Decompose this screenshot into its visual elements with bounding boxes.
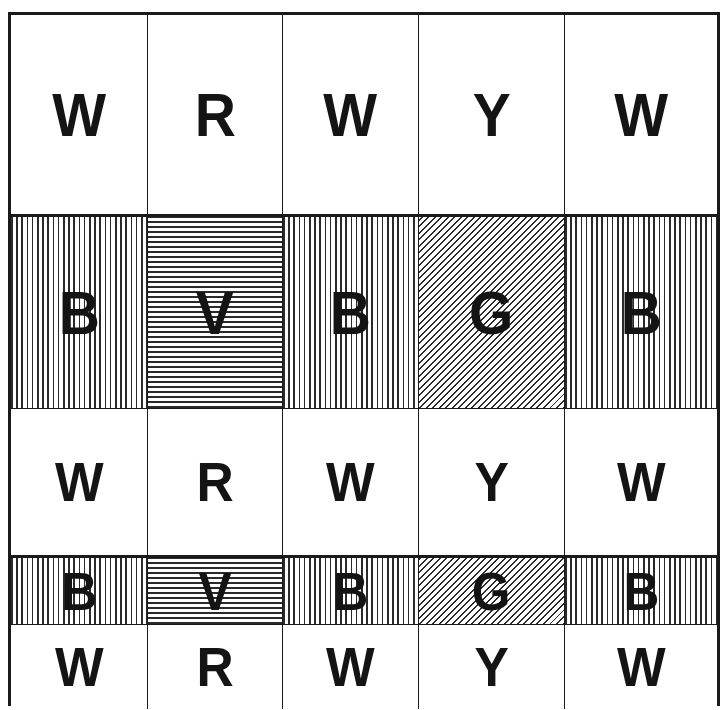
grid-cell-white: R [148,625,283,709]
cell-letter: W [324,84,378,146]
cell-letter: B [620,282,661,344]
grid-cell-white: W [283,409,419,556]
cell-letter: Y [472,84,510,146]
grid-cell-vertical-hatch: B [11,215,148,409]
grid-cell-diagonal-hatch: G [419,556,565,625]
grid-cell-white: R [148,409,283,556]
cell-letter: W [55,454,104,510]
grid-cell-vertical-hatch: B [565,215,717,409]
cell-letter: B [623,564,659,618]
cell-letter: Y [474,639,508,695]
cell-letter: W [55,639,104,695]
grid-cell-vertical-hatch: B [283,215,419,409]
cell-letter: Y [474,454,508,510]
grid-cell-white: Y [419,625,565,709]
cell-letter: W [52,84,106,146]
grid-cell-white: W [283,15,419,215]
grid-cell-white: W [283,625,419,709]
grid-cell-white: Y [419,409,565,556]
grid-cell-white: W [565,15,717,215]
grid-cell-white: Y [419,15,565,215]
grid-cell-white: W [11,409,148,556]
grid-cell-white: W [11,625,148,709]
cell-letter: V [196,282,234,344]
cell-letter: W [617,639,666,695]
cell-letter: B [58,282,99,344]
cell-letter: R [194,84,235,146]
color-letter-grid: WRWYWBVBGBWRWYWBVBGBWRWYW [8,12,720,706]
cell-letter: G [472,564,511,618]
cell-letter: W [326,454,375,510]
grid-cell-white: W [565,625,717,709]
cell-letter: W [617,454,666,510]
grid-cell-vertical-hatch: B [565,556,717,625]
cell-letter: G [469,282,513,344]
grid-cell-vertical-hatch: B [283,556,419,625]
grid-cell-horizontal-hatch: V [148,215,283,409]
cell-letter: B [333,564,369,618]
grid-cell-white: W [11,15,148,215]
grid-cell-white: W [565,409,717,556]
grid-cell-vertical-hatch: B [11,556,148,625]
cell-letter: W [326,639,375,695]
grid-cell-white: R [148,15,283,215]
grid-cell-diagonal-hatch: G [419,215,565,409]
cell-letter: V [198,564,231,618]
cell-letter: B [330,282,371,344]
cell-letter: W [614,84,668,146]
cell-letter: B [61,564,97,618]
cell-letter: R [196,454,233,510]
grid-cell-horizontal-hatch: V [148,556,283,625]
cell-letter: R [196,639,233,695]
